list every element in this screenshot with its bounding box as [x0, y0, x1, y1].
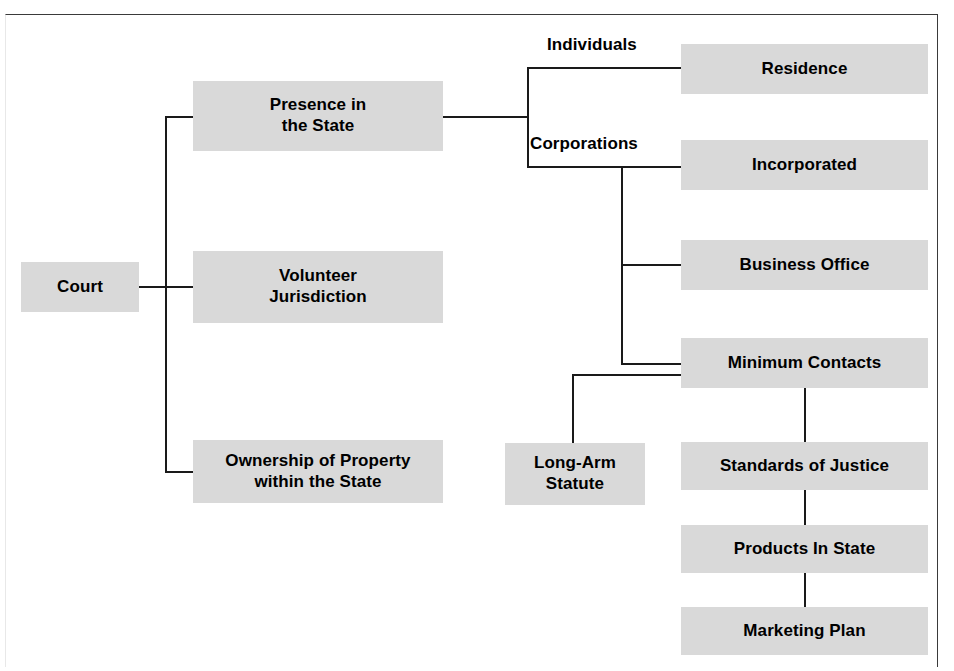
edge-label-corporations: Corporations	[530, 134, 638, 154]
node-minimum-contacts[interactable]: Minimum Contacts	[681, 338, 928, 388]
node-incorporated[interactable]: Incorporated	[681, 140, 928, 190]
node-business-office[interactable]: Business Office	[681, 240, 928, 290]
connector-court-trunk	[165, 117, 167, 473]
connector-trunk-to-presence	[165, 116, 195, 118]
connector-corporations-to-incorporated	[527, 166, 683, 168]
connector-court-stub	[139, 286, 167, 288]
node-residence[interactable]: Residence	[681, 44, 928, 94]
connector-subtrunk-to-minimum-contacts	[621, 363, 683, 365]
connector-standards-to-products	[804, 490, 806, 526]
node-ownership-of-property[interactable]: Ownership of Property within the State	[193, 440, 443, 503]
node-products-in-state[interactable]: Products In State	[681, 525, 928, 573]
connector-presence-branch-bar	[527, 67, 529, 168]
node-long-arm-statute[interactable]: Long-Arm Statute	[505, 443, 645, 505]
connector-presence-stub	[443, 116, 529, 118]
connector-minimum-to-standards	[804, 388, 806, 443]
node-marketing-plan[interactable]: Marketing Plan	[681, 607, 928, 655]
connector-corporate-subtrunk	[621, 167, 623, 365]
connector-subtrunk-to-business-office	[621, 264, 683, 266]
connector-minimum-to-longarm-vertical	[572, 374, 574, 444]
node-court[interactable]: Court	[21, 262, 139, 312]
connector-trunk-to-ownership	[165, 471, 195, 473]
connector-minimum-to-longarm-horizontal	[572, 374, 683, 376]
connector-individuals-to-residence	[527, 67, 683, 69]
connector-products-to-marketing	[804, 573, 806, 608]
edge-label-individuals: Individuals	[547, 35, 637, 55]
connector-trunk-to-volunteer	[165, 286, 195, 288]
node-presence-in-the-state[interactable]: Presence in the State	[193, 81, 443, 151]
node-volunteer-jurisdiction[interactable]: Volunteer Jurisdiction	[193, 251, 443, 323]
node-standards-of-justice[interactable]: Standards of Justice	[681, 442, 928, 490]
diagram-canvas: Individuals Corporations Court Presence …	[0, 0, 954, 671]
